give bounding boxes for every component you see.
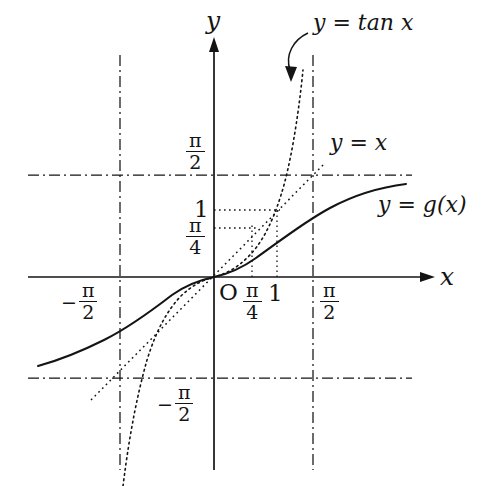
fraction: π 2 — [186, 131, 205, 174]
graph-canvas — [0, 0, 481, 486]
curve-label-identity: y = x — [330, 132, 387, 154]
g-curve — [38, 184, 406, 366]
fraction: π 2 — [79, 281, 98, 324]
y-tick-half-pi: π 2 — [186, 131, 205, 174]
fraction: π 2 — [175, 383, 194, 426]
x-tick-quarter-pi: π 4 — [243, 281, 262, 324]
x-axis-label: x — [440, 264, 454, 289]
curve-label-g: y = g(x) — [378, 194, 467, 216]
fraction: π 4 — [243, 281, 262, 324]
tan-callout-arrow — [289, 33, 308, 70]
y-axis-label: y — [206, 8, 220, 33]
tan-callout-arrowhead — [285, 66, 297, 82]
minus-sign: − — [61, 293, 77, 312]
x-tick-half-pi: π 2 — [320, 281, 339, 324]
origin-label: O — [219, 281, 238, 304]
y-axis-arrowhead — [209, 37, 219, 52]
curve-label-tan: y = tan x — [313, 12, 413, 34]
y-tick-neg-half-pi: − π 2 — [157, 383, 193, 426]
x-tick-neg-half-pi: − π 2 — [61, 281, 97, 324]
fraction: π 2 — [320, 281, 339, 324]
x-axis-arrowhead — [420, 272, 435, 282]
fraction: π 4 — [186, 216, 205, 259]
x-tick-one: 1 — [268, 282, 283, 305]
minus-sign: − — [157, 395, 173, 414]
math-figure: y x O − π 2 π 4 1 π 2 π 2 1 — [0, 0, 481, 486]
y-tick-quarter-pi: π 4 — [186, 216, 205, 259]
